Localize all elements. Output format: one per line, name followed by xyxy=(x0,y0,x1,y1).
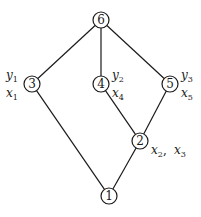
node-2: 2 xyxy=(132,133,148,149)
variable-label-x4: x4 xyxy=(112,86,124,102)
hasse-diagram: 634521 y1x1y2x4y3x5x2, x3 xyxy=(0,0,201,217)
variable-label-y3: y3 xyxy=(180,68,193,84)
edge-3-1 xyxy=(37,91,105,190)
edges-group xyxy=(37,25,167,189)
variable-label-x5: x5 xyxy=(181,86,193,102)
node-3: 3 xyxy=(24,76,40,92)
node-6: 6 xyxy=(93,12,109,28)
node-1: 1 xyxy=(101,188,117,204)
node-label: 6 xyxy=(97,13,105,27)
edge-6-3 xyxy=(38,25,95,78)
edge-5-2 xyxy=(144,91,167,134)
node-label: 4 xyxy=(97,77,105,91)
node-5: 5 xyxy=(162,76,178,92)
node-label: 5 xyxy=(166,77,174,91)
variable-label-x1: x1 xyxy=(6,86,18,102)
node-label: 1 xyxy=(105,189,113,203)
edge-2-1 xyxy=(113,148,136,189)
variable-label-x3: x3 xyxy=(174,143,186,159)
variable-label-y2: y2 xyxy=(111,68,124,84)
variable-label-y1: y1 xyxy=(5,68,18,84)
node-4: 4 xyxy=(93,76,109,92)
node-label: 2 xyxy=(136,134,144,148)
variable-label-x2: x2, xyxy=(151,143,167,159)
node-label: 3 xyxy=(28,77,36,91)
